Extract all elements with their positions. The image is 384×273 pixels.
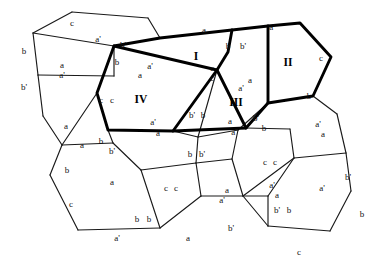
edge-label: a' [269, 22, 275, 32]
edge-label: c [110, 95, 114, 105]
edge-label: b' [21, 82, 28, 92]
edge-label: a [64, 121, 68, 131]
edge-label: b [226, 41, 231, 51]
edge-label: a [228, 116, 232, 126]
edge-label: a' [95, 34, 101, 44]
edge-label: b [262, 123, 267, 133]
edge-label: c [273, 157, 277, 167]
edge-label: b [360, 209, 365, 219]
edge-label: a' [59, 70, 65, 80]
edge-label: a [138, 70, 142, 80]
edge-label: a' [319, 183, 325, 193]
edge-label: a [248, 75, 252, 85]
edge-label: c [99, 95, 103, 105]
edge-label: a [186, 233, 190, 243]
edge-label: a' [219, 195, 225, 205]
region-III-label: III [229, 96, 243, 108]
edge-label: b' [109, 146, 116, 156]
edge-label: b [188, 149, 193, 159]
edge-label: a [202, 25, 206, 35]
edge-label: b [287, 205, 292, 215]
canvas-background [0, 0, 384, 273]
edge-label: a [321, 129, 325, 139]
edge-label: c [174, 183, 178, 193]
edge-label: a' [147, 61, 153, 71]
edge-label: a [60, 60, 64, 70]
edge-label: b' [228, 223, 235, 233]
edge-label: a' [269, 180, 275, 190]
edge-label: b [135, 214, 140, 224]
edge-label: b' [240, 41, 247, 51]
edge-label: a [275, 190, 279, 200]
edge-label: b' [345, 172, 352, 182]
edge-label: b' [120, 40, 127, 50]
tiling-diagram: ca'bb'aa'bb'caa'ba'acca'ab'ccb'bbaaa'aaa… [0, 0, 384, 273]
region-I-label: I [194, 50, 199, 62]
edge-label: a [110, 177, 114, 187]
edge-label: b [65, 165, 70, 175]
edge-label: a [225, 185, 229, 195]
edge-label: c [69, 199, 73, 209]
edge-label: b [307, 91, 312, 101]
edge-label: a' [114, 233, 120, 243]
edge-label: a' [238, 83, 244, 93]
edge-label: c [297, 247, 301, 257]
edge-label: b' [253, 113, 260, 123]
edge-label: b' [189, 110, 196, 120]
edge-label: b [22, 46, 27, 56]
edge-label: b [99, 136, 104, 146]
region-II-label: II [284, 56, 293, 68]
edge-label: c [164, 183, 168, 193]
edge-label: a' [231, 127, 237, 137]
edge-label: c [210, 63, 214, 73]
edge-label: a [156, 128, 160, 138]
edge-label: b [147, 214, 152, 224]
edge-label: b [201, 110, 206, 120]
edge-label: b [115, 57, 120, 67]
edge-label: c [70, 18, 74, 28]
edge-label: b' [274, 205, 281, 215]
edge-label: b' [199, 149, 206, 159]
edge-label: c [319, 53, 323, 63]
edge-label: c [263, 157, 267, 167]
region-IV-label: IV [135, 93, 148, 105]
edge-label: a [80, 140, 84, 150]
edge-label: c [210, 73, 214, 83]
edge-label: a' [150, 117, 156, 127]
edge-label: a' [315, 119, 321, 129]
